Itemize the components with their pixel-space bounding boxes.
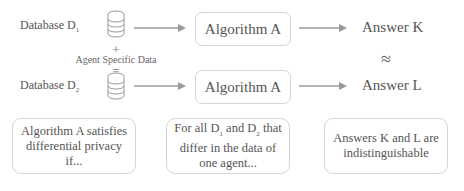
note-middle-text: For all D1 and D2 that differ in the dat… (173, 121, 283, 172)
text: For all D (174, 121, 219, 135)
algorithm-label: Algorithm A (205, 79, 281, 96)
algorithm-a-box-1: Algorithm A (195, 12, 291, 46)
database-label-text: Database D (20, 18, 76, 32)
answer-k: Answer K (362, 19, 423, 36)
arrow-right-icon (299, 82, 347, 90)
database-icon (107, 72, 125, 100)
algorithm-a-box-2: Algorithm A (195, 70, 291, 104)
note-middle: For all D1 and D2 that differ in the dat… (166, 118, 290, 174)
note-left: Algorithm A satisfies differential priva… (12, 118, 136, 174)
arrow-right-icon (134, 24, 186, 32)
algorithm-label: Algorithm A (205, 21, 281, 38)
text: and D (223, 121, 256, 135)
arrow-right-icon (299, 24, 347, 32)
database-label-text: Database D (20, 78, 76, 92)
database-d1-label: Database D1 (20, 18, 79, 34)
database-d2-label: Database D2 (20, 78, 79, 94)
database-subscript: 1 (76, 26, 80, 34)
arrow-right-icon (134, 82, 186, 90)
database-subscript: 2 (76, 86, 80, 94)
answer-l: Answer L (362, 77, 422, 94)
approx-symbol: ≈ (376, 49, 396, 70)
database-icon (107, 10, 125, 38)
note-right: Answers K and L are indistinguishable (324, 118, 448, 174)
